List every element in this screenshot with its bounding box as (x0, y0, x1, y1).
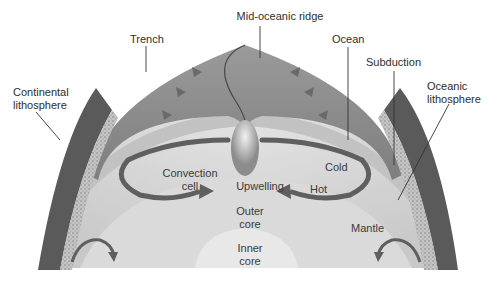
label-cold: Cold (325, 161, 348, 174)
upwelling-plume (231, 120, 259, 176)
label-convection-cell: Convection cell (150, 167, 230, 192)
earth-cross-section-diagram: Mid-oceanic ridge Trench Ocean Subductio… (0, 0, 492, 282)
label-subduction: Subduction (366, 56, 421, 69)
label-oceanic-lithosphere: Oceanic lithosphere (427, 80, 481, 105)
label-ocean: Ocean (332, 33, 364, 46)
label-mid-oceanic-ridge: Mid-oceanic ridge (220, 10, 340, 23)
label-outer-core: Outer core (225, 205, 275, 230)
label-inner-core: Inner core (225, 242, 275, 267)
label-hot: Hot (310, 183, 327, 196)
diagram-graphic (0, 0, 492, 282)
label-mantle: Mantle (351, 222, 384, 235)
label-continental-lithosphere: Continental lithosphere (13, 86, 69, 111)
label-upwelling: Upwelling (230, 180, 290, 193)
label-trench: Trench (130, 33, 164, 46)
